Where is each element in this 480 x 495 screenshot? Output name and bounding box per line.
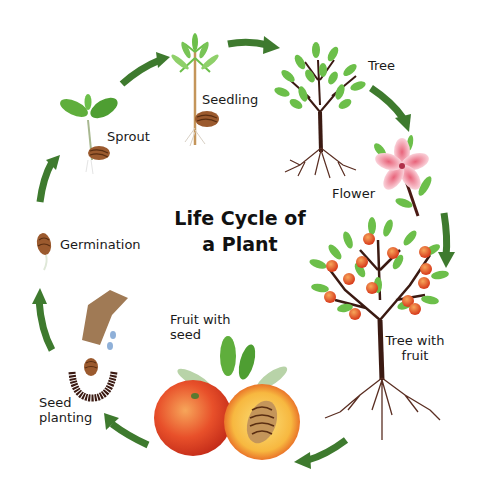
title-line-2: a Plant [150, 231, 330, 257]
arrow-germination-to-sprout [40, 162, 52, 202]
arrow-tree-to-flower [371, 88, 403, 118]
arrow-flower-to-fruittree [444, 213, 447, 256]
label-tree-with-fruit-line1: Tree with [380, 333, 450, 348]
arrow-fruit-to-planting [112, 424, 148, 445]
arrow-sprout-to-seedling [122, 60, 160, 84]
diagram-title: Life Cycle of a Plant [150, 205, 330, 257]
label-tree-with-fruit-line2: fruit [380, 348, 450, 363]
title-line-1: Life Cycle of [150, 205, 330, 231]
flower-illustration [372, 135, 434, 216]
label-germination: Germination [60, 237, 141, 252]
label-seedling: Seedling [202, 92, 258, 107]
arrow-planting-to-germination [39, 300, 52, 350]
label-fruit-with-seed-line1: Fruit with [170, 312, 231, 327]
tree-illustration [273, 42, 367, 178]
label-tree-with-fruit: Tree with fruit [380, 333, 450, 363]
arrow-seedling-to-tree [228, 42, 268, 45]
life-cycle-diagram: Life Cycle of a Plant Sprout Seedling Tr… [0, 0, 480, 495]
seed-planting-illustration [72, 290, 128, 398]
seedling-illustration [170, 33, 221, 146]
label-flower: Flower [332, 186, 375, 201]
arrow-fruittree-to-fruit [308, 440, 346, 460]
germination-illustration [35, 232, 53, 270]
label-seed-planting-line2: planting [39, 410, 92, 425]
label-seed-planting: Seed planting [39, 395, 92, 425]
label-sprout: Sprout [107, 129, 150, 144]
label-tree: Tree [368, 58, 395, 73]
label-fruit-with-seed-line2: seed [170, 327, 231, 342]
label-fruit-with-seed: Fruit with seed [170, 312, 231, 342]
label-seed-planting-line1: Seed [39, 395, 92, 410]
fruit-with-seed-illustration [154, 336, 300, 460]
